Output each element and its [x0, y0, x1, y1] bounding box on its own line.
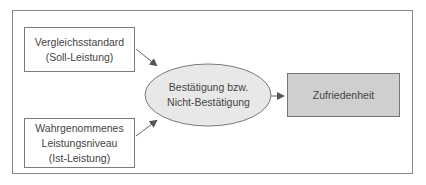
- arrow-standard-to-confirmation: [136, 49, 156, 65]
- arrow-perceived-to-confirmation: [136, 121, 156, 136]
- node-label-line: (Ist-Leistung): [49, 151, 110, 166]
- node-label-line: Zufriedenheit: [313, 88, 374, 103]
- node-confirmation-label: Bestätigung bzw. Nicht-Bestätigung: [146, 77, 271, 113]
- node-satisfaction: Zufriedenheit: [287, 73, 400, 117]
- node-label-line: Nicht-Bestätigung: [167, 95, 250, 110]
- node-comparison-standard: Vergleichsstandard (Soll-Leistung): [24, 27, 135, 72]
- node-label-line: Bestätigung bzw.: [169, 80, 248, 95]
- node-label-line: Vergleichsstandard: [35, 35, 124, 50]
- node-label-line: Wahrgenommenes: [35, 121, 123, 136]
- node-label-line: (Soll-Leistung): [46, 50, 114, 65]
- node-perceived-performance: Wahrgenommenes Leistungsniveau (Ist-Leis…: [24, 118, 135, 168]
- node-label-line: Leistungsniveau: [42, 136, 118, 151]
